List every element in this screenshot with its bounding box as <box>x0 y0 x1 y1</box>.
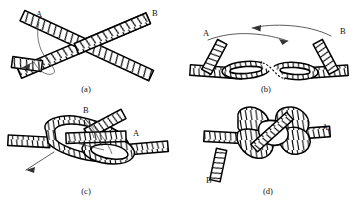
panel-c-caption: (c) <box>81 186 91 196</box>
panel-d-caption: (d) <box>263 186 273 196</box>
panel-b-label-b: B <box>340 26 346 36</box>
panel-a-caption: (a) <box>81 84 91 94</box>
panel-a-label-b: B <box>152 8 158 18</box>
panel-b-label-a: A <box>203 28 210 38</box>
knot-sequence-figure: A B (a) <box>0 0 356 203</box>
panel-c-label-a: A <box>133 128 140 138</box>
panel-a-label-a: A <box>36 9 43 19</box>
panel-b-caption: (b) <box>261 84 271 94</box>
figure-canvas: A B (a) <box>0 0 356 203</box>
panel-c-label-b: B <box>83 105 89 115</box>
rope-middle-band-c <box>66 131 126 144</box>
panel-d-label-a: A <box>322 122 329 132</box>
rope-left-standing-c <box>8 135 50 148</box>
panel-d-label-b: B <box>206 175 212 185</box>
